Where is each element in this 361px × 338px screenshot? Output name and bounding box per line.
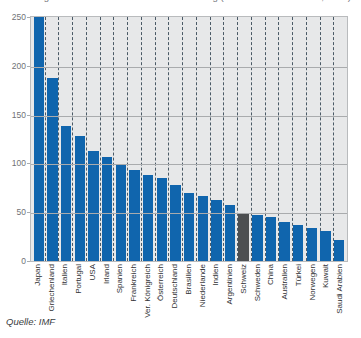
bar[interactable] xyxy=(334,240,344,261)
x-axis-label-slot: Schweden xyxy=(251,264,265,312)
x-axis-label-slot: Irland xyxy=(100,264,114,312)
bar-slot xyxy=(169,17,183,261)
x-axis-label-slot: Argentinien xyxy=(223,264,237,312)
y-axis: 050100150200250 xyxy=(0,16,30,262)
plot-area xyxy=(30,16,348,262)
bar-slot xyxy=(319,17,333,261)
x-axis-tick-label: Norwegen xyxy=(309,264,317,300)
bar[interactable] xyxy=(198,196,208,261)
x-axis-label-slot: Kuwait xyxy=(319,264,333,312)
bar-slot xyxy=(155,17,169,261)
bar[interactable] xyxy=(238,214,248,261)
bar-slot xyxy=(73,17,87,261)
bar[interactable] xyxy=(307,228,317,261)
x-axis-tick-label: Türkei xyxy=(295,264,303,286)
x-axis-label-slot: USA xyxy=(86,264,100,312)
bar-slot xyxy=(141,17,155,261)
x-axis-tick-label: Kuwait xyxy=(322,264,330,288)
figure-title-text: Abbildung 4.3: Internationale Staatsvers… xyxy=(6,0,351,2)
x-axis-label-slot: Japan xyxy=(31,264,45,312)
bar-slot xyxy=(210,17,224,261)
y-axis-tick-label: 200 xyxy=(12,61,26,71)
bar[interactable] xyxy=(88,151,98,261)
bar[interactable] xyxy=(320,231,330,261)
bar[interactable] xyxy=(129,170,139,261)
x-axis-labels: JapanGriechenlandItalienPortugalUSAIrlan… xyxy=(30,264,348,312)
bar[interactable] xyxy=(170,185,180,261)
bar[interactable] xyxy=(34,17,44,261)
bar-slot xyxy=(100,17,114,261)
bar[interactable] xyxy=(252,215,262,261)
x-axis-tick-label: Spanien xyxy=(116,264,124,293)
x-axis-tick-label: Argentinien xyxy=(226,264,234,304)
x-axis-tick-label: Saudi Arabien xyxy=(336,264,344,314)
x-axis-label-slot: China xyxy=(264,264,278,312)
x-axis-label-slot: Ver. Königreich xyxy=(141,264,155,312)
bar-slot xyxy=(332,17,346,261)
y-axis-tick-label: 0 xyxy=(21,256,26,266)
x-axis-label-slot: Italien xyxy=(58,264,72,312)
bar[interactable] xyxy=(266,217,276,261)
bar[interactable] xyxy=(102,157,112,261)
y-axis-tick-label: 100 xyxy=(12,158,26,168)
x-axis-tick-label: USA xyxy=(89,264,97,280)
x-axis-tick-label: China xyxy=(267,264,275,285)
x-axis-label-slot: Frankreich xyxy=(127,264,141,312)
bar[interactable] xyxy=(61,126,71,261)
x-axis-tick-label: Niederlande xyxy=(199,264,207,307)
gridline xyxy=(31,116,347,117)
figure-title-clipped: Abbildung 4.3: Internationale Staatsvers… xyxy=(0,0,361,7)
x-axis-label-slot: Österreich xyxy=(155,264,169,312)
x-axis-tick-label: Italien xyxy=(61,264,69,285)
x-axis-label-slot: Norwegen xyxy=(306,264,320,312)
x-axis-tick-label: Australien xyxy=(281,264,289,300)
x-axis-label-slot: Griechenland xyxy=(45,264,59,312)
bar[interactable] xyxy=(211,200,221,261)
x-axis-label-slot: Schweiz xyxy=(237,264,251,312)
y-axis-tick-label: 150 xyxy=(12,110,26,120)
bar-slot xyxy=(196,17,210,261)
x-axis-label-slot: Portugal xyxy=(72,264,86,312)
x-axis-tick-label: Österreich xyxy=(157,264,165,301)
bar-slot xyxy=(291,17,305,261)
bar-slot xyxy=(87,17,101,261)
x-axis-tick-label: Schweden xyxy=(254,264,262,301)
bar-slot xyxy=(223,17,237,261)
bar-slot xyxy=(59,17,73,261)
x-axis-label-slot: Indien xyxy=(210,264,224,312)
bar[interactable] xyxy=(75,136,85,261)
x-axis-label-slot: Türkei xyxy=(292,264,306,312)
x-axis-label-slot: Brasilien xyxy=(182,264,196,312)
y-axis-tick-label: 250 xyxy=(12,12,26,22)
x-axis-tick-label: Japan xyxy=(34,264,42,286)
bar-series xyxy=(31,17,347,261)
x-axis-tick-label: Portugal xyxy=(75,264,83,294)
x-axis-label-slot: Deutschland xyxy=(168,264,182,312)
x-axis-tick-label: Griechenland xyxy=(48,264,56,312)
x-axis-label-slot: Australien xyxy=(278,264,292,312)
bar-slot xyxy=(32,17,46,261)
x-axis-tick-label: Ver. Königreich xyxy=(144,264,152,318)
bar-slot xyxy=(237,17,251,261)
bar-slot xyxy=(182,17,196,261)
bar-slot xyxy=(264,17,278,261)
bar-slot xyxy=(278,17,292,261)
source-note: Quelle: IMF xyxy=(6,316,55,327)
bar[interactable] xyxy=(143,175,153,261)
bar-slot xyxy=(251,17,265,261)
x-axis-label-slot: Niederlande xyxy=(196,264,210,312)
bar[interactable] xyxy=(47,78,57,261)
x-axis-tick-label: Deutschland xyxy=(171,264,179,308)
gridline xyxy=(31,67,347,68)
bar[interactable] xyxy=(184,193,194,261)
x-axis-tick-label: Indien xyxy=(212,264,220,286)
x-axis-label-slot: Saudi Arabien xyxy=(333,264,347,312)
x-axis-tick-label: Irland xyxy=(103,264,111,284)
bar[interactable] xyxy=(157,178,167,261)
x-axis-label-slot: Spanien xyxy=(113,264,127,312)
bar-slot xyxy=(114,17,128,261)
x-axis-tick-label: Frankreich xyxy=(130,264,138,302)
bar[interactable] xyxy=(293,225,303,261)
bar[interactable] xyxy=(279,222,289,261)
y-axis-tick-label: 50 xyxy=(17,207,26,217)
